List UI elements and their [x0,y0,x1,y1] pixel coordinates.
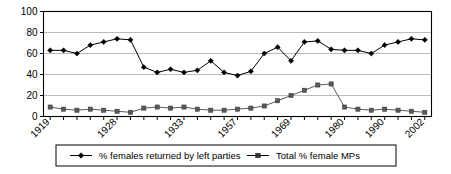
y-tick-label-20: 20 [26,90,38,101]
series-line [50,39,425,76]
data-point [114,36,119,41]
plot-border [44,12,432,117]
y-tick-label-60: 60 [26,48,38,59]
data-point [396,108,400,112]
data-point [48,48,53,53]
data-point [182,105,186,109]
data-point [356,107,360,111]
data-point [409,109,413,113]
data-point [209,108,213,112]
data-point [249,106,253,110]
line-chart: 020406080100 191919281933195719691980199… [0,0,451,174]
data-point [128,37,133,42]
data-point [422,37,427,42]
data-point [409,36,414,41]
data-point [369,108,373,112]
data-point [48,105,52,109]
data-point [329,47,334,52]
data-point [355,48,360,53]
y-tick-label-80: 80 [26,27,38,38]
data-point [142,106,146,110]
x-tick-label-1980: 1980 [322,116,346,140]
x-tick-label-1933: 1933 [162,116,186,140]
data-point [395,39,400,44]
data-point [222,108,226,112]
data-point [302,88,306,92]
data-point [423,110,427,114]
data-point [195,107,199,111]
data-point [369,51,374,56]
data-point [88,43,93,48]
data-point [61,48,66,53]
data-point [155,105,159,109]
data-series [48,36,428,114]
x-axis-tick-labels: 19191928193319571969198019902002 [28,116,426,140]
data-point [128,110,132,114]
data-point [88,107,92,111]
x-tick-label-1928: 1928 [95,116,119,140]
series-2-square [48,82,427,115]
data-point [316,83,320,87]
data-point [61,107,65,111]
y-tick-label-0: 0 [32,111,38,122]
data-point [329,82,333,86]
x-tick-label-2002: 2002 [403,116,427,140]
y-axis-ticks: 020406080100 [21,6,44,122]
data-point [383,107,387,111]
x-tick-label-1957: 1957 [215,116,239,140]
x-tick-label-1990: 1990 [363,116,387,140]
data-point [115,109,119,113]
data-point [382,43,387,48]
data-point [289,93,293,97]
x-tick-label-1969: 1969 [269,116,293,140]
data-point [168,67,173,72]
data-point [315,38,320,43]
chart-legend[interactable]: % females returned by left partiesTotal … [56,145,396,166]
legend-marker-square-icon [256,153,261,158]
data-point [262,104,266,108]
chart-container: 020406080100 191919281933195719691980199… [0,0,451,174]
data-point [235,73,240,78]
data-point [75,108,79,112]
data-point [342,48,347,53]
data-point [276,99,280,103]
data-point [169,106,173,110]
data-point [235,107,239,111]
data-point [101,39,106,44]
y-tick-label-100: 100 [21,6,38,17]
legend-label: % females returned by left parties [99,150,241,161]
legend-label: Total % female MPs [276,150,360,161]
data-point [102,108,106,112]
data-point [342,105,346,109]
data-point [74,51,79,56]
plot-area-frame [44,12,432,117]
series-1-diamond [48,36,428,78]
data-point [141,65,146,70]
y-tick-label-40: 40 [26,69,38,80]
